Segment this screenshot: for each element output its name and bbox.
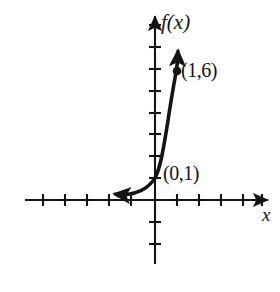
graph-canvas — [0, 0, 280, 292]
axes-group — [25, 16, 268, 264]
exponential-function-graph: f(x) x (1,6) (0,1) — [0, 0, 280, 292]
curve-left-arrow — [114, 194, 124, 195]
point-label-0-1: (0,1) — [163, 163, 199, 183]
point-label-1-6: (1,6) — [181, 60, 217, 80]
x-axis-label: x — [262, 205, 270, 224]
point-marker-1-6 — [173, 67, 182, 76]
y-axis-label: f(x) — [161, 12, 190, 33]
curve-top-arrow — [178, 50, 179, 64]
